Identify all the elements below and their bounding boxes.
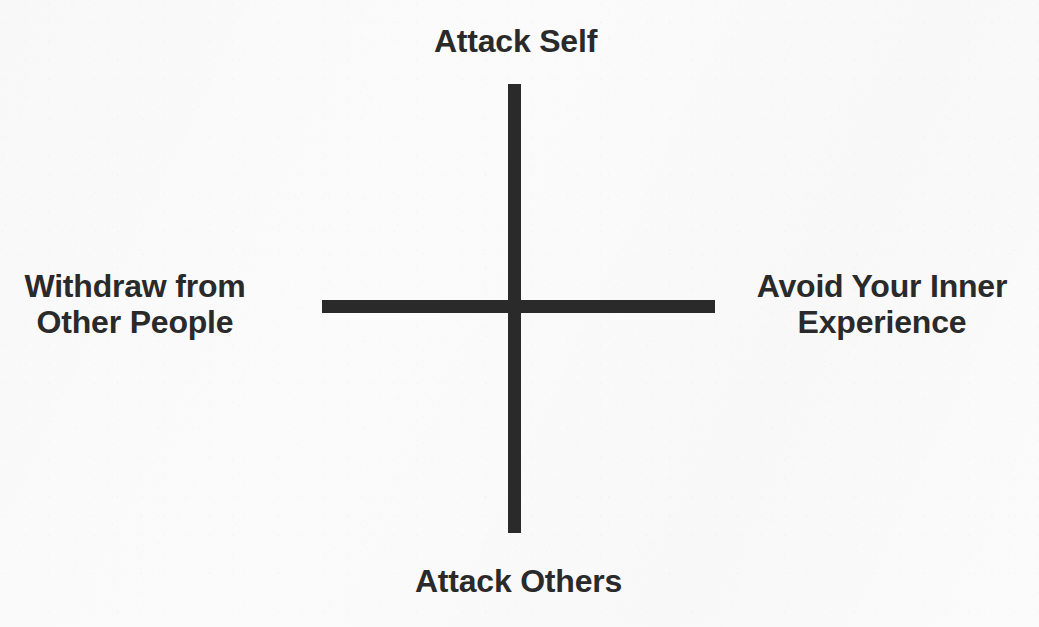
quadrant-diagram: Attack Self Withdraw from Other People A… [0, 0, 1039, 627]
axis-label-top: Attack Self [0, 23, 1039, 59]
axis-label-right: Avoid Your Inner Experience [742, 268, 1022, 340]
axis-label-left: Withdraw from Other People [0, 268, 270, 340]
axis-label-bottom: Attack Others [0, 563, 1039, 599]
horizontal-axis-line [322, 300, 715, 313]
